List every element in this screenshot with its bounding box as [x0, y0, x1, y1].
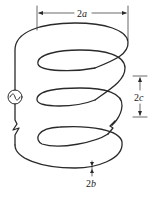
arrow-left-icon — [38, 11, 43, 15]
label-2b: 2b — [86, 178, 96, 189]
sine-wave-icon — [10, 94, 20, 100]
label-2a: 2a — [77, 8, 87, 19]
arrow-right-icon — [122, 11, 127, 15]
arrow-down-icon — [90, 162, 94, 166]
ac-source — [8, 90, 22, 104]
coil — [13, 23, 128, 168]
label-2c: 2c — [134, 92, 144, 103]
arrow-up-icon — [90, 169, 94, 173]
dimension-2b — [90, 161, 94, 176]
arrow-down-icon — [138, 111, 142, 116]
helix-diagram: 2a 2c 2b — [0, 0, 153, 197]
arrow-up-icon — [138, 77, 142, 82]
